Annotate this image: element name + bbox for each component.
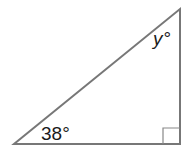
triangle-diagram: 38° y°	[0, 0, 189, 150]
angle-y-variable: y	[151, 28, 164, 49]
angle-y-degree: °	[164, 28, 172, 49]
angle-y-label: y°	[151, 28, 171, 49]
angle-38-label: 38°	[41, 123, 70, 144]
right-angle-marker	[163, 128, 180, 144]
